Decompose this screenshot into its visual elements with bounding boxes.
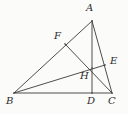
point-marker-h [91, 67, 92, 68]
vertex-label-c: C [108, 96, 116, 106]
point-marker-a [91, 20, 92, 21]
side-AB [14, 21, 92, 93]
vertex-label-e: E [110, 56, 117, 66]
geometry-figure: A B C D E F H [0, 0, 128, 114]
point-marker-d [91, 92, 92, 93]
point-marker-c [111, 92, 112, 93]
point-marker-b [13, 92, 14, 93]
vertex-label-f: F [54, 31, 61, 41]
point-marker-f [64, 43, 65, 44]
vertex-label-a: A [86, 3, 93, 13]
vertex-label-b: B [6, 96, 13, 106]
orthocenter-label-h: H [80, 71, 89, 81]
vertex-label-d: D [87, 96, 95, 106]
point-marker-e [104, 64, 105, 65]
altitude-BE [14, 65, 105, 93]
segment-group [14, 21, 112, 93]
point-group [13, 20, 112, 93]
